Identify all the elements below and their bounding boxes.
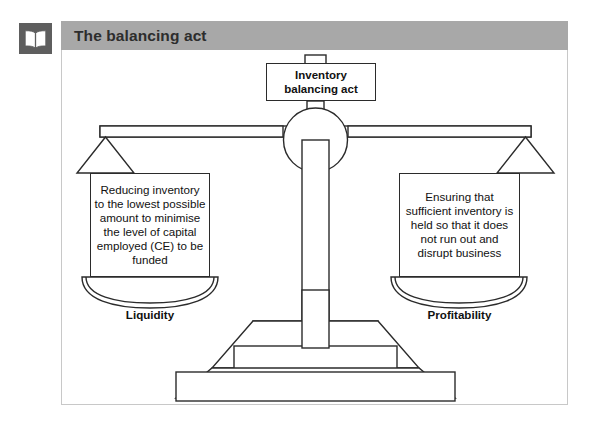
beam-left-segment <box>100 126 283 137</box>
left-hanger <box>77 137 134 173</box>
right-box-text: Ensuring that sufficient inventory is he… <box>403 190 516 261</box>
left-box-text: Reducing inventory to the lowest possibl… <box>94 183 206 268</box>
balancing-act-figure: The balancing act <box>0 0 590 445</box>
profitability-description-box: Ensuring that sufficient inventory is he… <box>399 173 520 277</box>
center-column-foot <box>302 290 329 348</box>
inventory-balancing-act-box: Inventory balancing act <box>266 63 376 101</box>
top-box-line-2: balancing act <box>284 83 358 95</box>
beam-right-segment <box>348 126 531 137</box>
right-pan-label: Profitability <box>399 308 520 321</box>
liquidity-description-box: Reducing inventory to the lowest possibl… <box>90 173 210 277</box>
section-title-bar: The balancing act <box>61 21 568 50</box>
top-box-text: Inventory balancing act <box>284 68 358 96</box>
right-hanger <box>497 137 554 173</box>
page-title: The balancing act <box>74 27 207 45</box>
top-box-line-1: Inventory <box>295 69 347 81</box>
left-pan-label: Liquidity <box>90 308 210 321</box>
diagram-panel: Inventory balancing act Reducing invento… <box>61 50 568 405</box>
pedestal-base-slab <box>176 372 455 401</box>
open-book-icon <box>19 23 52 54</box>
